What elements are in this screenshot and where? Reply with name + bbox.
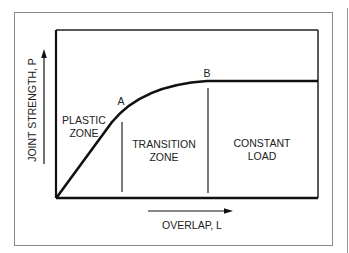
- transition-zone-label-line1: TRANSITION: [132, 138, 196, 150]
- y-axis-label: JOINT STRENGTH, P: [26, 58, 38, 162]
- plastic-zone-label-line2: ZONE: [69, 127, 98, 139]
- point-b-label: B: [203, 67, 210, 79]
- constant-load-label-line2: LOAD: [248, 150, 277, 162]
- transition-zone-label-line2: ZONE: [149, 151, 178, 163]
- x-axis-label: OVERLAP, L: [162, 219, 222, 231]
- point-a-label: A: [117, 95, 124, 107]
- x-arrow-head-icon: [224, 208, 233, 214]
- y-arrow-head-icon: [41, 49, 47, 58]
- diagram-canvas: A B PLASTIC ZONE TRANSITION ZONE CONSTAN…: [0, 0, 349, 253]
- constant-load-label-line1: CONSTANT: [234, 137, 292, 149]
- plastic-zone-label-line1: PLASTIC: [62, 114, 106, 126]
